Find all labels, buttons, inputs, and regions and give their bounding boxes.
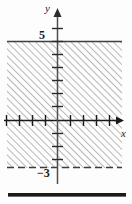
x-axis-label: x [121,128,126,139]
y-axis-label: y [45,3,50,14]
tick-label-negative-three: −3 [37,167,50,179]
coordinate-plane-svg [0,0,132,186]
solution-region-fill [7,42,122,168]
inequality-graph-figure: y x 5 −3 [0,0,132,204]
y-axis-arrowhead [54,8,62,17]
coordinate-plane [0,0,132,186]
tick-label-five: 5 [39,29,45,41]
bottom-divider-shadow [8,196,126,197]
